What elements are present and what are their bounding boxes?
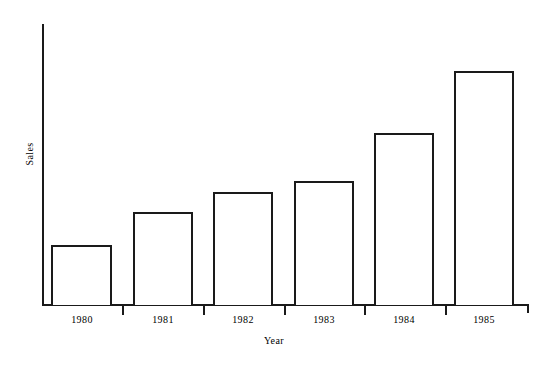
- bar-1983: [294, 181, 354, 305]
- x-tick-label-1981: 1981: [123, 313, 203, 327]
- x-tick-label-1984: 1984: [364, 313, 444, 327]
- x-axis-title: Year: [0, 334, 548, 348]
- bar-chart: Sales 1980 1981 1982 1983 1984 1985 Year: [0, 0, 548, 365]
- bar-1985: [454, 71, 514, 305]
- bars-layer: [0, 0, 548, 365]
- x-tick-label-1983: 1983: [284, 313, 364, 327]
- x-tick-label-1985: 1985: [444, 313, 524, 327]
- bar-1984: [374, 133, 434, 305]
- bar-1980: [51, 245, 112, 305]
- bar-1981: [133, 212, 193, 305]
- x-tick-label-1980: 1980: [42, 313, 122, 327]
- bar-1982: [213, 192, 273, 305]
- x-tick-label-1982: 1982: [203, 313, 283, 327]
